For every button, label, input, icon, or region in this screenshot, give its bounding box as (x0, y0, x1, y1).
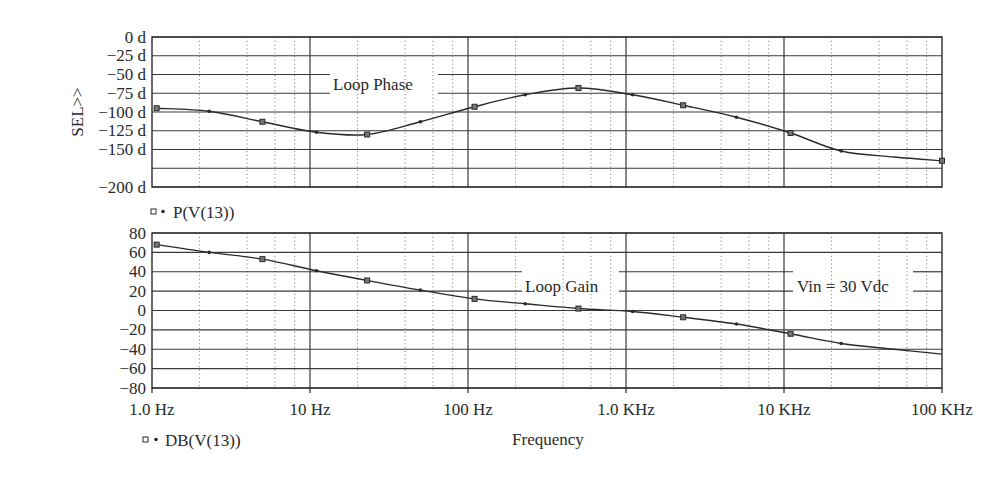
dot-marker-icon (161, 210, 165, 214)
dot-marker (523, 302, 527, 306)
square-marker (576, 306, 581, 311)
y-tick-label: 40 (129, 262, 146, 281)
y-tick-label: 0 d (125, 28, 147, 47)
square-marker (365, 132, 370, 137)
x-tick-label: 1.0 Hz (129, 400, 175, 419)
square-marker (681, 315, 686, 320)
x-tick-label: 100 Hz (443, 400, 493, 419)
frequency-axis: 1.0 Hz10 Hz100 Hz1.0 KHz10 KHz100 KHz (129, 388, 973, 419)
y-tick-label: −25 d (107, 46, 147, 65)
x-tick-label: 10 Hz (289, 400, 331, 419)
dot-marker (839, 149, 843, 153)
phase-y-axis-label: SEL>> (68, 87, 87, 136)
square-marker (788, 331, 793, 336)
x-axis-label: Frequency (512, 430, 584, 449)
y-tick-label: −80 (119, 379, 146, 398)
y-tick-label: −50 d (107, 65, 147, 84)
bode-plot-canvas: 0 d−25 d−50 d−75 d−100 d−125 d−150 d−200… (0, 0, 993, 479)
square-marker (681, 103, 686, 108)
dot-marker (207, 109, 211, 113)
dot-marker (735, 115, 739, 119)
dot-marker (315, 269, 319, 273)
dot-marker (735, 322, 739, 326)
phase-plot: 0 d−25 d−50 d−75 d−100 d−125 d−150 d−200… (98, 28, 944, 197)
square-marker-icon (143, 437, 148, 442)
y-tick-label: −125 d (98, 121, 146, 140)
bode-plot-figure: 0 d−25 d−50 d−75 d−100 d−125 d−150 d−200… (0, 0, 993, 479)
dot-marker (839, 342, 843, 346)
dot-marker (523, 93, 527, 97)
y-tick-label: −200 d (98, 178, 146, 197)
y-tick-label: −100 d (98, 103, 146, 122)
y-tick-label: 80 (129, 224, 146, 243)
square-marker (154, 242, 159, 247)
gain-legend-label: DB(V(13)) (165, 431, 241, 450)
phase-legend: P(V(13)) (151, 203, 234, 222)
x-tick-label: 10 KHz (757, 400, 811, 419)
y-tick-label: 20 (129, 282, 146, 301)
square-marker (260, 257, 265, 262)
square-marker (472, 296, 477, 301)
dot-marker (315, 130, 319, 134)
x-tick-label: 1.0 KHz (597, 400, 655, 419)
dot-marker (419, 288, 423, 292)
y-tick-label: −40 (119, 340, 146, 359)
dot-marker (419, 120, 423, 124)
y-tick-label: 0 (138, 301, 147, 320)
y-tick-label: −60 (119, 359, 146, 378)
loop-gain-annotation: Loop Gain (525, 277, 599, 296)
dot-marker (631, 93, 635, 97)
vin-annotation: Vin = 30 Vdc (797, 277, 889, 296)
square-marker (154, 106, 159, 111)
dot-marker-icon (154, 438, 158, 442)
square-marker (576, 86, 581, 91)
phase-legend-label: P(V(13)) (173, 203, 234, 222)
y-tick-label: −150 d (98, 140, 146, 159)
square-marker (788, 131, 793, 136)
square-marker-icon (151, 209, 156, 214)
y-tick-label: −75 d (107, 84, 147, 103)
x-tick-label: 100 KHz (911, 400, 973, 419)
y-tick-label: 60 (129, 243, 146, 262)
square-marker (472, 104, 477, 109)
square-marker (260, 119, 265, 124)
loop-phase-annotation: Loop Phase (333, 75, 413, 94)
trace-line (157, 245, 942, 354)
square-marker (940, 158, 945, 163)
dot-marker (631, 310, 635, 314)
dot-marker (207, 251, 211, 255)
square-marker (365, 278, 370, 283)
gain-plot: 806040200−20−40−60−80 (119, 224, 942, 398)
gain-legend: DB(V(13)) (143, 431, 241, 450)
y-tick-label: −20 (119, 320, 146, 339)
